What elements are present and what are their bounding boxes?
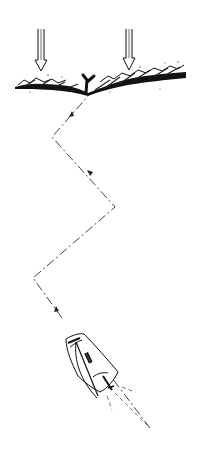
down-arrow-icon-left bbox=[35, 29, 47, 71]
down-arrow-icon-right bbox=[123, 29, 135, 70]
sailboat-icon bbox=[66, 334, 118, 398]
course-arrow-icons bbox=[54, 111, 93, 312]
wake-lines bbox=[107, 387, 148, 426]
illustration bbox=[0, 0, 199, 455]
